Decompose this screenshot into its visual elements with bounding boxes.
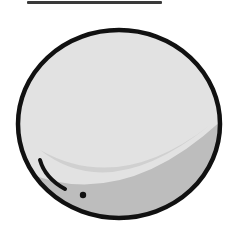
gray-disc-icon xyxy=(0,0,232,227)
highlight-dot xyxy=(80,192,86,198)
